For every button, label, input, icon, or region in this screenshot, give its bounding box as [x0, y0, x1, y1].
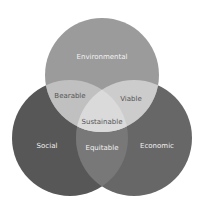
equitable-label: Equitable: [86, 144, 119, 152]
bearable-label: Bearable: [54, 92, 85, 100]
environmental-label: Environmental: [77, 53, 128, 61]
viable-label: Viable: [120, 95, 142, 103]
venn-diagram: Environmental Bearable Viable Sustainabl…: [0, 0, 201, 209]
sustainable-label: Sustainable: [82, 118, 123, 126]
social-label: Social: [37, 142, 58, 150]
economic-label: Economic: [140, 142, 174, 150]
